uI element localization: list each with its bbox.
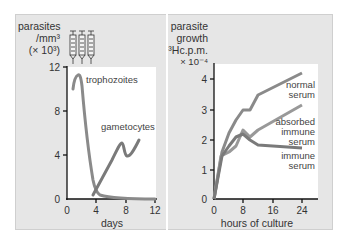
normal-serum-label: normal serum [286, 79, 315, 100]
left-plot-area [67, 67, 156, 199]
syringe-icon [88, 31, 94, 64]
trophozoites-label: trophozoites [86, 74, 138, 85]
left-xtick: 4 [93, 205, 99, 216]
right-xtick: 8 [240, 205, 246, 216]
left-ytick: 8 [54, 106, 60, 117]
left-xtick: 0 [64, 205, 70, 216]
svg-text:serum: serum [289, 89, 315, 100]
syringe-icon [79, 31, 85, 64]
right-xtick: 16 [267, 205, 279, 216]
right-ytick: 2 [201, 135, 207, 146]
right-ytick: 4 [201, 74, 207, 85]
charts-svg: 12 8 4 0 0 4 8 12 days trophozoites game… [0, 0, 337, 247]
right-xlabel: hours of culture [221, 217, 294, 229]
left-ytick: 12 [49, 62, 61, 73]
syringe-icon [70, 31, 76, 64]
left-ytick: 4 [54, 150, 60, 161]
right-ytick: 1 [201, 165, 207, 176]
left-xtick: 8 [123, 205, 129, 216]
left-ytick: 0 [54, 194, 60, 205]
right-ytick: 3 [201, 105, 207, 116]
svg-text:serum: serum [289, 136, 315, 147]
right-xtick: 24 [296, 205, 308, 216]
left-xlabel: days [101, 217, 123, 229]
right-xtick: 0 [211, 205, 217, 216]
right-ytick: 0 [201, 194, 207, 205]
left-xtick: 12 [149, 205, 161, 216]
gametocytes-label: gametocytes [101, 121, 155, 132]
syringe-icons [70, 31, 94, 64]
svg-text:serum: serum [289, 160, 315, 171]
